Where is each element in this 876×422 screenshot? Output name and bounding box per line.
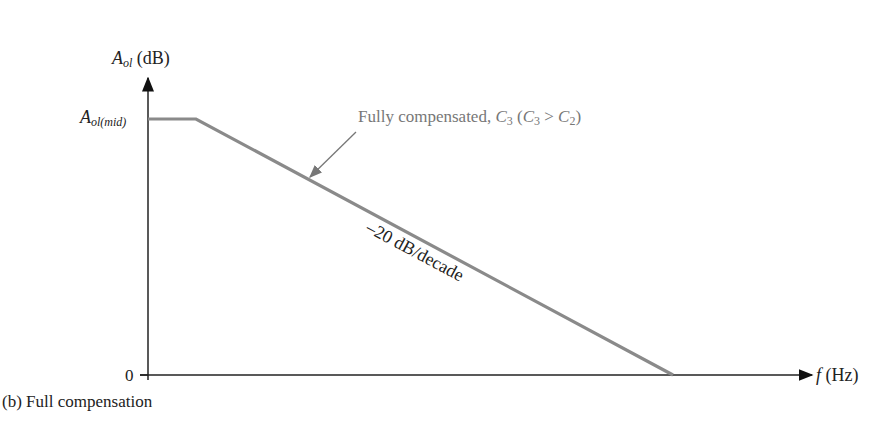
annotation-label: Fully compensated, C3 (C3 > C2) (358, 108, 581, 125)
annotation-arrow (310, 132, 356, 177)
y-axis-label: Aol (dB) (112, 49, 170, 67)
y-tick-mid-label: Aol(mid) (80, 108, 126, 126)
y-tick-zero-label: 0 (125, 367, 134, 384)
figure-caption: (b) Full compensation (2, 393, 152, 410)
x-axis-label: f (Hz) (816, 366, 859, 384)
